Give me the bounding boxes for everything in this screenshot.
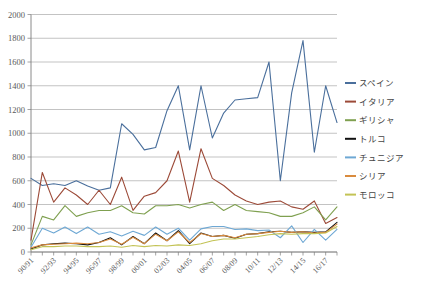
x-tick-label: 06/07 bbox=[197, 256, 216, 275]
line-chart: 0200400600800100012001400160018002000 90… bbox=[0, 0, 424, 299]
y-tick-label: 400 bbox=[12, 200, 25, 210]
x-tick-label: 94/95 bbox=[61, 256, 80, 275]
legend-label-5: シリア bbox=[359, 171, 386, 181]
x-tick-label: 92/93 bbox=[39, 256, 58, 275]
legend-label-4: チュニジア bbox=[359, 153, 404, 163]
legend-label-0: スペイン bbox=[359, 78, 394, 88]
y-axis: 0200400600800100012001400160018002000 bbox=[8, 10, 31, 258]
chart-container: 0200400600800100012001400160018002000 90… bbox=[0, 0, 424, 299]
y-tick-label: 1600 bbox=[8, 57, 25, 67]
y-tick-label: 0 bbox=[21, 247, 25, 257]
y-tick-label: 1200 bbox=[8, 105, 25, 115]
x-tick-label: 16/17 bbox=[311, 256, 330, 275]
series-line-6 bbox=[31, 226, 337, 249]
legend-label-1: イタリア bbox=[359, 97, 395, 107]
y-tick-label: 600 bbox=[12, 176, 25, 186]
x-tick-label: 12/13 bbox=[265, 256, 284, 275]
x-tick-label: 00/01 bbox=[129, 256, 148, 275]
x-tick-label: 08/09 bbox=[220, 256, 239, 275]
x-axis: 90/9192/9394/9596/9798/9900/0102/0304/05… bbox=[16, 252, 337, 275]
y-tick-label: 1000 bbox=[8, 128, 25, 138]
y-tick-label: 800 bbox=[12, 152, 25, 162]
x-tick-label: 02/03 bbox=[152, 256, 171, 275]
x-tick-label: 04/05 bbox=[175, 256, 194, 275]
y-tick-label: 1800 bbox=[8, 33, 25, 43]
y-tick-label: 200 bbox=[12, 223, 25, 233]
series-line-2 bbox=[31, 202, 337, 245]
x-tick-label: 96/97 bbox=[84, 256, 103, 275]
series-line-0 bbox=[31, 41, 337, 191]
y-tick-label: 1400 bbox=[8, 81, 25, 91]
legend-label-3: トルコ bbox=[359, 134, 386, 144]
x-tick-label: 98/99 bbox=[107, 256, 126, 275]
chart-legend: スペインイタリアギリシャトルコチュニジアシリアモロッコ bbox=[345, 78, 404, 200]
x-tick-label: 10/11 bbox=[243, 256, 262, 275]
series-lines bbox=[31, 41, 337, 250]
y-tick-label: 2000 bbox=[8, 10, 25, 20]
x-tick-label: 14/15 bbox=[288, 256, 307, 275]
legend-label-6: モロッコ bbox=[359, 190, 395, 200]
legend-label-2: ギリシャ bbox=[359, 115, 395, 125]
x-tick-label: 90/91 bbox=[16, 256, 35, 275]
